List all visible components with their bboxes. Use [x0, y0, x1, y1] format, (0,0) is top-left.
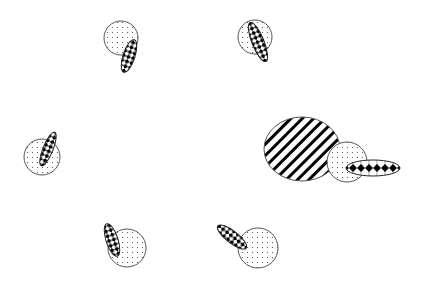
shapes-diagram [0, 0, 421, 294]
top-left-pair [104, 21, 140, 74]
diagram-canvas [0, 0, 421, 294]
bottom-right-pair [214, 221, 278, 268]
right-cluster [264, 117, 400, 182]
checkered-ellipse [346, 160, 400, 176]
hatched-ellipse [264, 117, 340, 181]
top-right-pair [238, 20, 272, 64]
bottom-left-pair [101, 222, 146, 267]
left-pair [24, 130, 60, 175]
